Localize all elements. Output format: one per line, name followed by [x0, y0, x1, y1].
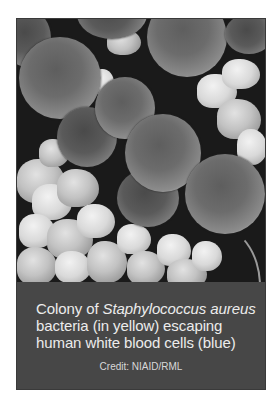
bacterium-sphere [225, 19, 265, 54]
debris-cluster [17, 247, 57, 282]
bacterium-sphere [147, 19, 227, 77]
caption-text: Colony of Staphylococcus aureus bacteria… [36, 300, 261, 351]
debris-cluster [222, 59, 260, 89]
caption-line-3: human white blood cells (blue) [36, 334, 261, 351]
micrograph-image [17, 19, 265, 282]
debris-cluster [117, 224, 151, 254]
debris-cluster [55, 251, 91, 282]
caption-prefix: Colony of [36, 300, 103, 317]
caption-box: Colony of Staphylococcus aureus bacteria… [17, 282, 265, 389]
caption-line-2: bacteria (in yellow) escaping [36, 317, 261, 334]
fiber-strand [167, 224, 261, 282]
debris-cluster [57, 169, 99, 207]
figure-card: Colony of Staphylococcus aureus bacteria… [17, 19, 265, 389]
species-name: Staphylococcus aureus [103, 300, 256, 317]
image-credit: Credit: NIAID/RML [17, 361, 265, 372]
caption-line-1: Colony of Staphylococcus aureus [36, 300, 261, 317]
bacterium-sphere [185, 154, 265, 234]
debris-cluster [77, 204, 115, 238]
